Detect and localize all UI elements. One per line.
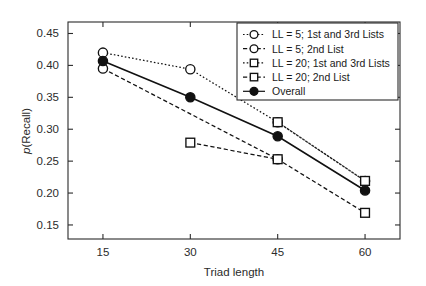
- x-tick-label: 60: [359, 246, 372, 258]
- legend-label: LL = 20; 1st and 3rd Lists: [272, 57, 390, 69]
- legend-marker: [250, 31, 258, 39]
- svg-text:p(Recall): p(Recall): [20, 108, 32, 155]
- data-point: [273, 132, 282, 141]
- x-tick-label: 30: [184, 246, 197, 258]
- x-tick-label: 15: [97, 246, 110, 258]
- y-tick-label: 0.35: [37, 91, 59, 103]
- y-tick-label: 0.30: [37, 123, 59, 135]
- data-point: [186, 65, 195, 74]
- x-axis-title: Triad length: [204, 266, 264, 278]
- recall-line-chart: 0.150.200.250.300.350.400.45 15304560 LL…: [0, 0, 426, 286]
- x-tick-label: 45: [271, 246, 284, 258]
- y-tick-label: 0.15: [37, 219, 59, 231]
- legend-label: Overall: [272, 85, 305, 97]
- legend-marker: [250, 73, 257, 80]
- data-point: [273, 155, 282, 164]
- legend-label: LL = 20; 2nd List: [272, 71, 350, 83]
- legend-marker: [250, 59, 257, 66]
- data-point: [361, 208, 370, 217]
- legend-marker: [250, 45, 258, 53]
- data-point: [273, 118, 282, 127]
- data-point: [186, 93, 195, 102]
- y-axis-title: p(Recall): [20, 108, 32, 155]
- data-point: [186, 138, 195, 147]
- y-tick-label: 0.40: [37, 59, 59, 71]
- y-tick-label: 0.45: [37, 27, 59, 39]
- chart-legend: LL = 5; 1st and 3rd ListsLL = 5; 2nd Lis…: [237, 23, 398, 100]
- legend-label: LL = 5; 1st and 3rd Lists: [272, 28, 384, 40]
- y-tick-label: 0.25: [37, 155, 59, 167]
- chart-figure: 0.150.200.250.300.350.400.45 15304560 LL…: [0, 0, 426, 286]
- legend-label: LL = 5; 2nd List: [272, 43, 344, 55]
- y-tick-label: 0.20: [37, 187, 59, 199]
- data-point: [360, 186, 369, 195]
- data-point: [361, 177, 370, 186]
- legend-marker: [250, 87, 258, 95]
- y-axis-title-rest: (Recall): [20, 108, 32, 148]
- data-point: [98, 56, 107, 65]
